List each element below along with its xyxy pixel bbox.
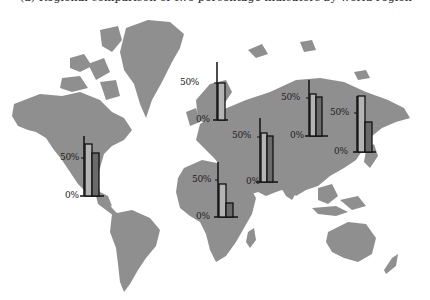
tick-50: 50%	[60, 152, 79, 162]
tick-0: 0%	[290, 130, 304, 140]
tick-50: 50%	[232, 130, 251, 140]
bar-chart-russia	[282, 80, 328, 140]
tick-50: 50%	[192, 174, 211, 184]
tick-50: 50%	[281, 92, 300, 102]
minichart-middle-east: 50% 0%	[232, 118, 278, 186]
minichart-russia: 50% 0%	[282, 80, 328, 140]
tick-0: 0%	[334, 146, 348, 156]
minichart-east-asia: 50% 0%	[330, 90, 376, 156]
tick-50: 50%	[180, 77, 199, 87]
tick-50: 50%	[330, 107, 349, 117]
tick-0: 0%	[196, 211, 210, 221]
minichart-north-america: 50% 0%	[60, 136, 110, 200]
tick-0: 0%	[196, 114, 210, 124]
tick-0: 0%	[246, 176, 260, 186]
tick-0: 0%	[65, 190, 79, 200]
minichart-europe: 50% 0%	[188, 62, 228, 124]
